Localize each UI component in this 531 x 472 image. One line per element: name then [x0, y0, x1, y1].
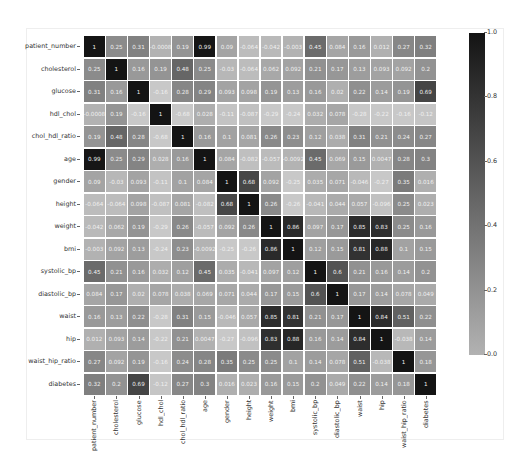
heatmap-cell: 0.29	[128, 149, 149, 170]
heatmap-cell: 0.092	[261, 171, 282, 192]
heatmap-cell: -0.11	[217, 104, 238, 125]
heatmap-cell: 0.3	[415, 149, 436, 170]
heatmap-cell: 0.17	[327, 59, 348, 80]
heatmap-cell: 0.86	[261, 239, 282, 260]
x-tick-mark	[183, 396, 184, 399]
heatmap-cell: 0.093	[371, 59, 392, 80]
heatmap-cell: 0.093	[106, 329, 127, 350]
heatmap-cell: 0.0047	[371, 149, 392, 170]
heatmap-cell: 0.13	[349, 59, 370, 80]
heatmap-cell: 0.48	[172, 59, 193, 80]
x-tick-label: bmi	[288, 400, 298, 460]
heatmap-cell: 0.15	[194, 306, 215, 327]
heatmap-cell: 0.17	[327, 306, 348, 327]
heatmap-cell: 0.25	[106, 149, 127, 170]
heatmap-cell: 0.032	[305, 104, 326, 125]
heatmap-cell: 0.18	[393, 374, 414, 395]
heatmap-cell: 0.19	[128, 216, 149, 237]
heatmap-cell: -0.11	[150, 171, 171, 192]
heatmap-cell: -0.057	[194, 216, 215, 237]
y-tick-label: cholesterol	[41, 59, 80, 80]
heatmap-cell: -0.29	[150, 216, 171, 237]
heatmap-cell: 0.14	[371, 374, 392, 395]
heatmap-cell: 0.2	[305, 374, 326, 395]
heatmap-cell: 0.13	[283, 81, 304, 102]
heatmap-cell: 0.13	[128, 239, 149, 260]
heatmap-cell: 1	[239, 194, 260, 215]
heatmap-cell: 0.092	[106, 239, 127, 260]
heatmap-cell: 0.19	[261, 81, 282, 102]
x-tick-label: hip	[377, 400, 387, 460]
colorbar-tick-label: 1.0	[487, 28, 497, 36]
heatmap-cell: 0.2	[415, 59, 436, 80]
heatmap-cell: 0.84	[371, 306, 392, 327]
x-tick-mark	[205, 396, 206, 399]
heatmap-cell: 0.028	[150, 149, 171, 170]
heatmap-cell: 0.28	[194, 351, 215, 372]
heatmap-cell: 0.092	[106, 351, 127, 372]
heatmap-cell: 0.16	[194, 126, 215, 147]
heatmap-cell: -0.25	[283, 171, 304, 192]
x-tick-label: diabetes	[421, 400, 431, 460]
heatmap-cell: 0.69	[415, 81, 436, 102]
heatmap-cell: 0.093	[217, 81, 238, 102]
heatmap-cell: 0.2	[106, 374, 127, 395]
heatmap-cell: 0.22	[415, 306, 436, 327]
heatmap-cell: 0.45	[305, 149, 326, 170]
heatmap-cell: 0.035	[305, 171, 326, 192]
heatmap-cell: 0.062	[261, 59, 282, 80]
x-tick-mark	[139, 396, 140, 399]
heatmap-cell: 0.16	[84, 306, 105, 327]
heatmap-cell: 0.14	[327, 329, 348, 350]
x-tick-mark	[360, 396, 361, 399]
heatmap-cell: -0.16	[128, 104, 149, 125]
heatmap-cell: 0.084	[217, 149, 238, 170]
x-tick-mark	[404, 396, 405, 399]
heatmap-cell: 0.51	[349, 351, 370, 372]
heatmap-cell: 0.16	[349, 36, 370, 57]
y-tick-label: waist	[59, 306, 80, 327]
heatmap-cell: 0.14	[371, 284, 392, 305]
heatmap-cell: 0.45	[305, 36, 326, 57]
heatmap-cell: -0.25	[217, 239, 238, 260]
heatmap-cell: -0.68	[172, 104, 193, 125]
heatmap-cell: -0.096	[239, 329, 260, 350]
heatmap-cell: 0.23	[283, 126, 304, 147]
heatmap-cell: 0.27	[415, 126, 436, 147]
heatmap-cell: 0.83	[371, 216, 392, 237]
heatmap-cell: 0.16	[415, 216, 436, 237]
heatmap-cell: 0.23	[172, 239, 193, 260]
heatmap-cell: 0.069	[327, 149, 348, 170]
heatmap-cell: 0.078	[393, 284, 414, 305]
heatmap-cell: 0.044	[239, 284, 260, 305]
x-tick-label: waist_hip_ratio	[399, 400, 409, 460]
heatmap-cell: -0.064	[239, 59, 260, 80]
heatmap-cell: 0.19	[150, 59, 171, 80]
heatmap-cell: -0.003	[84, 239, 105, 260]
heatmap-cell: 0.18	[415, 351, 436, 372]
heatmap-cell: 0.32	[84, 374, 105, 395]
heatmap-cell: 0.6	[305, 284, 326, 305]
heatmap-cell: 0.12	[283, 261, 304, 282]
heatmap-cell: 1	[194, 149, 215, 170]
heatmap-cell: -0.082	[194, 194, 215, 215]
heatmap-cell: 0.21	[371, 126, 392, 147]
heatmap-cell: 0.02	[128, 284, 149, 305]
heatmap-cell: 0.45	[194, 261, 215, 282]
y-tick-label: patient_number	[25, 36, 80, 57]
heatmap-cell: 0.31	[349, 126, 370, 147]
colorbar	[469, 33, 485, 355]
heatmap-cell: 0.15	[283, 374, 304, 395]
heatmap-cell: 0.09	[84, 171, 105, 192]
heatmap-cell: 0.26	[261, 194, 282, 215]
y-tick-label: diastolic_bp	[38, 284, 80, 305]
heatmap-cell: -0.12	[150, 374, 171, 395]
heatmap-cell: 0.17	[106, 284, 127, 305]
heatmap-cell: 0.0047	[194, 329, 215, 350]
heatmap-cell: 0.038	[172, 284, 193, 305]
heatmap-cell: -0.038	[371, 351, 392, 372]
heatmap-cell: 0.071	[217, 284, 238, 305]
heatmap-cell: 1	[371, 329, 392, 350]
x-tick-mark	[426, 396, 427, 399]
heatmap-cell: -0.096	[371, 194, 392, 215]
